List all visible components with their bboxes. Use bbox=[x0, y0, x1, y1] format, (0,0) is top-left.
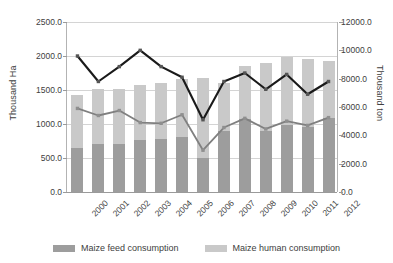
x-axis-tick-label: 2011 bbox=[320, 198, 340, 218]
line-marker[interactable] bbox=[243, 117, 246, 120]
y-axis-right-tick-label: 6000.0 bbox=[341, 102, 387, 112]
line-marker[interactable] bbox=[264, 127, 267, 130]
legend-item[interactable]: Maize human consumption bbox=[205, 243, 341, 253]
line-marker[interactable] bbox=[118, 65, 121, 68]
legend-item[interactable]: Maize feed consumption bbox=[53, 243, 179, 253]
line-series-group bbox=[67, 22, 339, 192]
tickmark-right bbox=[339, 192, 343, 193]
tickmark-right bbox=[339, 107, 343, 108]
legend-swatch bbox=[205, 245, 227, 252]
line-marker[interactable] bbox=[159, 65, 162, 68]
tickmark-right bbox=[339, 50, 343, 51]
line-marker[interactable] bbox=[139, 49, 142, 52]
y-axis-left-tick-label: 1500.0 bbox=[18, 85, 62, 95]
x-axis-tick-label: 2001 bbox=[111, 198, 131, 218]
right-tickmarks bbox=[339, 22, 343, 192]
line-marker[interactable] bbox=[285, 73, 288, 76]
y-axis-right-ticks: 0.02000.04000.06000.08000.010000.012000.… bbox=[341, 0, 387, 263]
line-marker[interactable] bbox=[76, 107, 79, 110]
line-marker[interactable] bbox=[327, 80, 330, 83]
line-path bbox=[77, 50, 328, 119]
tickmark-right bbox=[339, 22, 343, 23]
line-marker[interactable] bbox=[180, 113, 183, 116]
chart-container: Thousand Ha Thousand ton 0.0500.01000.01… bbox=[0, 0, 393, 263]
line-marker[interactable] bbox=[201, 118, 204, 121]
y-axis-left-tick-label: 0.0 bbox=[18, 187, 62, 197]
y-axis-left-tick-label: 1000.0 bbox=[18, 119, 62, 129]
x-axis-tick-label: 2004 bbox=[174, 198, 194, 218]
legend-swatch bbox=[53, 245, 75, 252]
x-axis-tick-label: 2009 bbox=[278, 198, 298, 218]
line-marker[interactable] bbox=[97, 114, 100, 117]
x-axis-tick-label: 2006 bbox=[216, 198, 236, 218]
x-axis-tick-label: 2007 bbox=[236, 198, 256, 218]
x-axis-tick-label: 2010 bbox=[299, 198, 319, 218]
line-marker[interactable] bbox=[159, 122, 162, 125]
x-axis-tick-label: 2003 bbox=[153, 198, 173, 218]
line-marker[interactable] bbox=[118, 109, 121, 112]
line-marker[interactable] bbox=[327, 116, 330, 119]
y-axis-left-title: Thousand Ha bbox=[8, 54, 18, 132]
y-axis-right-tick-label: 2000.0 bbox=[341, 159, 387, 169]
line-marker[interactable] bbox=[222, 126, 225, 129]
y-axis-right-tick-label: 12000.0 bbox=[341, 17, 387, 27]
y-axis-left-tick-label: 500.0 bbox=[18, 153, 62, 163]
x-axis-tick-label: 2008 bbox=[257, 198, 277, 218]
x-axis-ticks: 2000200120022003200420052006200720082009… bbox=[66, 192, 338, 238]
line-marker[interactable] bbox=[97, 80, 100, 83]
line-marker[interactable] bbox=[222, 80, 225, 83]
line-marker[interactable] bbox=[285, 119, 288, 122]
tickmark-right bbox=[339, 164, 343, 165]
y-axis-left-ticks: 0.0500.01000.01500.02000.02500.0 bbox=[18, 0, 62, 263]
plot-area bbox=[66, 22, 338, 192]
line-marker[interactable] bbox=[201, 149, 204, 152]
line-marker[interactable] bbox=[180, 76, 183, 79]
line-marker[interactable] bbox=[306, 124, 309, 127]
y-axis-left-tick-label: 2500.0 bbox=[18, 17, 62, 27]
line-marker[interactable] bbox=[76, 54, 79, 57]
y-axis-left-tick-label: 2000.0 bbox=[18, 51, 62, 61]
line-marker[interactable] bbox=[139, 121, 142, 124]
x-axis-tick-label: 2000 bbox=[90, 198, 110, 218]
y-axis-right-tick-label: 10000.0 bbox=[341, 45, 387, 55]
y-axis-right-tick-label: 0.0 bbox=[341, 187, 387, 197]
line-marker[interactable] bbox=[264, 88, 267, 91]
x-axis-tick-label: 2005 bbox=[195, 198, 215, 218]
tickmark-right bbox=[339, 79, 343, 80]
legend-label: Maize human consumption bbox=[233, 243, 341, 253]
chart-legend: Maize feed consumptionMaize human consum… bbox=[0, 239, 393, 257]
y-axis-right-tick-label: 8000.0 bbox=[341, 74, 387, 84]
tickmark-right bbox=[339, 135, 343, 136]
x-axis-tick-label: 2002 bbox=[132, 198, 152, 218]
line-path bbox=[77, 108, 328, 150]
legend-label: Maize feed consumption bbox=[81, 243, 179, 253]
y-axis-right-tick-label: 4000.0 bbox=[341, 130, 387, 140]
line-marker[interactable] bbox=[243, 71, 246, 74]
line-marker[interactable] bbox=[306, 93, 309, 96]
